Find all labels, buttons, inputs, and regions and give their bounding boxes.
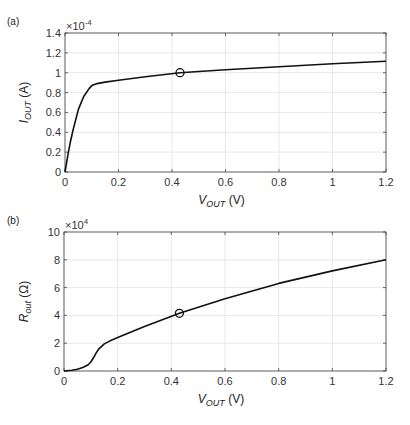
x-tick-label: 1.2 <box>378 375 393 387</box>
y-tick-label: 0.2 <box>46 146 61 158</box>
y-tick-label: 0.6 <box>46 106 61 118</box>
y-tick-label: 1.4 <box>46 27 61 39</box>
exponent-label: ×10-4 <box>66 18 92 32</box>
x-tick-label: 0.8 <box>271 375 286 387</box>
chart-panel-b: 00.20.40.60.811.20246810×104(b)VOUT (V)R… <box>7 215 394 408</box>
panel-label: (b) <box>7 215 19 226</box>
x-tick-label: 0.2 <box>111 176 126 188</box>
x-tick-label: 1 <box>329 176 335 188</box>
y-tick-label: 4 <box>54 309 60 321</box>
y-axis-label: Rout (Ω) <box>17 281 33 322</box>
y-tick-label: 10 <box>48 226 60 238</box>
x-tick-label: 0.8 <box>271 176 286 188</box>
x-tick-label: 0.2 <box>110 375 125 387</box>
y-tick-label: 0 <box>54 365 60 377</box>
chart-panel-a: 00.20.40.60.811.200.20.40.60.811.21.4×10… <box>7 16 394 209</box>
x-tick-label: 0 <box>62 176 68 188</box>
x-tick-label: 0.4 <box>164 176 179 188</box>
x-tick-label: 0 <box>61 375 67 387</box>
y-tick-label: 0.4 <box>46 126 61 138</box>
x-tick-label: 0.4 <box>164 375 179 387</box>
y-axis-label: IOUT (A) <box>17 82 33 124</box>
x-axis-label: VOUT (V) <box>198 392 244 408</box>
x-axis-label: VOUT (V) <box>198 193 244 209</box>
panel-label: (a) <box>7 16 19 27</box>
figure: 00.20.40.60.811.200.20.40.60.811.21.4×10… <box>0 0 410 425</box>
y-tick-label: 6 <box>54 282 60 294</box>
y-tick-label: 1 <box>55 67 61 79</box>
y-tick-label: 1.2 <box>46 47 61 59</box>
y-tick-label: 2 <box>54 337 60 349</box>
x-tick-label: 1.2 <box>378 176 393 188</box>
x-tick-label: 0.6 <box>217 375 232 387</box>
y-tick-label: 8 <box>54 254 60 266</box>
exponent-label: ×104 <box>65 217 89 231</box>
x-tick-label: 0.6 <box>218 176 233 188</box>
y-tick-label: 0 <box>55 166 61 178</box>
x-tick-label: 1 <box>329 375 335 387</box>
y-tick-label: 0.8 <box>46 87 61 99</box>
